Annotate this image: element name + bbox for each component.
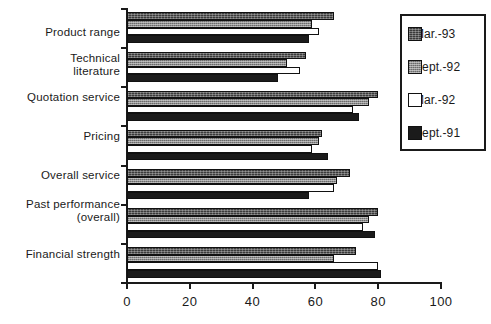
- category-label-line1: Overall service: [41, 169, 120, 181]
- y-axis-tick: [121, 243, 127, 245]
- bar-mar-92-financial-strength: [127, 262, 378, 270]
- bar-mar-93-quotation-service: [127, 91, 378, 99]
- category-label: Product range: [45, 26, 120, 39]
- bar-mar-93-product-range: [127, 12, 334, 20]
- category-label-line1: Past performance: [26, 198, 120, 210]
- bar-sept-91-past-performance-overall: [127, 231, 375, 239]
- legend-swatch-sept-92: [408, 60, 422, 74]
- x-axis-tick: [189, 282, 191, 289]
- category-label: Past performance (overall): [26, 198, 120, 224]
- category-label: Technical literature: [70, 52, 120, 78]
- bar-sept-92-technical-literature: [127, 59, 287, 67]
- category-label: Financial strength: [26, 248, 120, 261]
- legend: Mar.-93 Sept.-92 Mar.-92 Sept.-91: [400, 14, 486, 151]
- bar-sept-92-past-performance-overall: [127, 216, 369, 224]
- bar-sept-92-product-range: [127, 20, 312, 28]
- y-axis-tick: [121, 47, 127, 49]
- category-label: Pricing: [83, 130, 120, 143]
- bar-mar-92-quotation-service: [127, 106, 353, 114]
- x-axis-tick-label: 80: [370, 294, 385, 310]
- x-axis-tick: [377, 282, 379, 289]
- x-axis-tick: [440, 282, 442, 289]
- category-label-line2: literature: [70, 65, 120, 78]
- y-axis-tick: [121, 8, 127, 10]
- bar-mar-93-overall-service: [127, 169, 350, 177]
- y-axis-tick: [121, 204, 127, 206]
- category-label-line1: Pricing: [83, 130, 120, 142]
- bar-mar-92-past-performance-overall: [127, 223, 363, 231]
- category-label-line1: Quotation service: [27, 91, 120, 103]
- category-label-line1: Financial strength: [26, 248, 120, 260]
- category-label: Overall service: [41, 169, 120, 182]
- x-axis-tick-label: 20: [182, 294, 197, 310]
- bar-sept-91-financial-strength: [127, 270, 381, 278]
- x-axis-tick: [126, 282, 128, 289]
- x-axis-tick-label: 40: [245, 294, 260, 310]
- bar-sept-91-technical-literature: [127, 74, 278, 82]
- bar-sept-92-pricing: [127, 137, 319, 145]
- legend-swatch-mar-92: [408, 93, 422, 107]
- category-label-line1: Technical: [70, 52, 120, 64]
- bar-mar-93-pricing: [127, 130, 322, 138]
- category-label-line2: (overall): [26, 211, 120, 224]
- bar-sept-92-financial-strength: [127, 255, 334, 263]
- bar-mar-93-financial-strength: [127, 247, 356, 255]
- bar-mar-93-technical-literature: [127, 52, 306, 60]
- legend-item: Sept.-91: [408, 125, 460, 141]
- legend-swatch-mar-93: [408, 27, 422, 41]
- y-axis-tick: [121, 165, 127, 167]
- plot-area: 020406080100: [127, 8, 441, 282]
- bar-mar-92-technical-literature: [127, 67, 300, 75]
- bar-sept-91-pricing: [127, 153, 328, 161]
- bar-mar-92-product-range: [127, 28, 319, 36]
- bar-mar-93-past-performance-overall: [127, 208, 378, 216]
- legend-item: Mar.-93: [408, 26, 455, 42]
- x-axis-tick: [314, 282, 316, 289]
- y-axis-tick: [121, 125, 127, 127]
- legend-item: Mar.-92: [408, 92, 455, 108]
- bar-sept-92-overall-service: [127, 177, 337, 185]
- x-axis-tick: [252, 282, 254, 289]
- bar-sept-92-quotation-service: [127, 98, 369, 106]
- legend-item: Sept.-92: [408, 59, 460, 75]
- legend-swatch-sept-91: [408, 126, 422, 140]
- bar-mar-92-overall-service: [127, 184, 334, 192]
- bar-sept-91-overall-service: [127, 192, 309, 200]
- bar-sept-91-product-range: [127, 35, 309, 43]
- y-axis-tick: [121, 86, 127, 88]
- category-label-line1: Product range: [45, 26, 120, 38]
- bar-mar-92-pricing: [127, 145, 312, 153]
- bar-sept-91-quotation-service: [127, 113, 359, 121]
- x-axis-tick-label: 60: [308, 294, 323, 310]
- category-axis-labels: Product range Technical literature Quota…: [0, 0, 124, 290]
- x-axis-tick-label: 100: [429, 294, 452, 310]
- x-axis-line: [126, 282, 442, 284]
- category-label: Quotation service: [27, 91, 120, 104]
- x-axis-tick-label: 0: [123, 294, 131, 310]
- bar-chart: Product range Technical literature Quota…: [0, 0, 491, 324]
